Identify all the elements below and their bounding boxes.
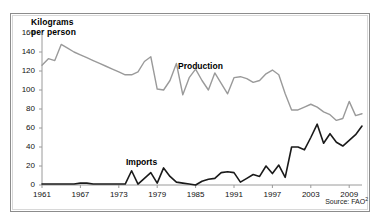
series-line-imports <box>42 124 362 185</box>
series-line-production <box>42 44 362 120</box>
series-label-imports: Imports <box>126 157 157 167</box>
source-note-text: Source: FAO <box>325 198 365 205</box>
series-label-production: Production <box>178 61 223 71</box>
chart-plot-svg <box>0 0 382 221</box>
chart-figure: Kilogramsper person 02040608010012014016… <box>0 0 382 221</box>
chart-axes <box>39 33 362 188</box>
source-note-superscript: 2 <box>365 196 368 202</box>
source-note: Source: FAO2 <box>325 196 368 205</box>
